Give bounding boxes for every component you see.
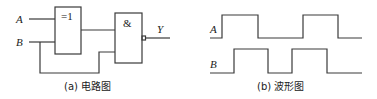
caption-waveform: (b) 波形图 (257, 80, 304, 92)
waveform-a (210, 15, 362, 38)
waveform-label-a: A (209, 23, 217, 35)
waveform-b (210, 49, 362, 73)
wire-b-feedback (40, 42, 115, 73)
circuit-diagram: A B =1 & Y (a) 电路图 (15, 7, 170, 92)
nand-symbol: & (123, 17, 132, 29)
xor-symbol: =1 (61, 10, 73, 22)
waveform-diagram: A B (b) 波形图 (209, 15, 362, 92)
inverter-bubble-icon (142, 36, 146, 40)
waveform-label-b: B (210, 58, 217, 70)
figure: A B =1 & Y (a) 电路图 A B (b) 波形图 (0, 0, 377, 99)
input-label-a: A (15, 13, 23, 25)
input-label-b: B (16, 36, 23, 48)
output-label-y: Y (157, 23, 165, 35)
caption-circuit: (a) 电路图 (64, 80, 111, 92)
